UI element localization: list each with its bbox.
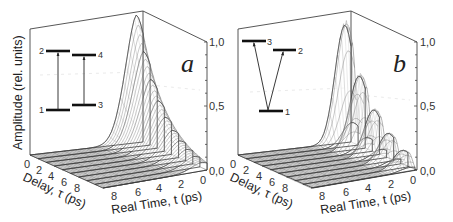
time-tick-label: 4 [365,182,371,194]
time-tick-label: 2 [388,178,394,190]
transition-1-2-arrow [268,52,283,110]
right-top-edge [351,11,417,42]
z-tick-label: 1,0 [209,36,224,48]
arrowhead-icon [57,52,60,56]
panel-a: 2 4 1 3 a 1,0 0,5 0,0 Amplitude (rel. un… [11,11,224,217]
transition-1-3-arrow [254,43,268,110]
background-artifact [40,72,200,90]
time-tick-label: 4 [156,182,162,194]
level-label: 2 [39,46,44,56]
back-top-edge [238,11,351,29]
time-tick-label: 0 [410,174,416,186]
waterfall-surface-b [238,21,415,189]
figure: 2 4 1 3 a 1,0 0,5 0,0 Amplitude (rel. un… [0,0,453,222]
z-tick-label: 0,5 [420,100,435,112]
z-tick-label: 0,0 [420,165,435,177]
level-label: 4 [98,50,103,60]
z-tick-label: 0,0 [209,165,224,177]
z-tick-label: 1,0 [420,36,435,48]
level-label: 2 [298,46,303,56]
arrowhead-icon [281,51,284,56]
delay-tick-label: 0 [24,158,30,170]
time-tick-label: 6 [135,186,141,198]
delay-tick-label: 0 [230,158,236,170]
arrowhead-icon [83,56,86,60]
waterfall-surface-a [30,15,207,188]
right-top-edge [143,11,207,42]
arrowhead-icon [253,42,256,47]
energy-level-inset-a: 2 4 1 3 [39,46,103,115]
level-label: 3 [267,37,272,47]
panel-letter-b: b [393,49,406,78]
time-tick-label: 2 [178,178,184,190]
energy-level-inset-b: 3 2 1 [242,37,303,117]
back-top-edge [30,11,143,29]
time-tick-label: 6 [343,186,349,198]
delay-slice-profile [30,15,143,155]
panel-b: 3 2 1 b 1,0 0,5 0,0 0 2 4 6 8 Delay, τ (… [228,11,436,217]
background-artifact [250,88,410,100]
time-tick-label: 8 [111,190,117,202]
level-label: 3 [98,100,103,110]
level-label: 1 [285,107,290,117]
time-tick-label: 0 [200,174,206,186]
time-tick-label: 8 [319,190,325,202]
panel-letter-a: a [181,49,194,78]
level-label: 1 [39,105,44,115]
z-tick-label: 0,5 [209,100,224,112]
amplitude-axis-label: Amplitude (rel. units) [11,35,25,150]
